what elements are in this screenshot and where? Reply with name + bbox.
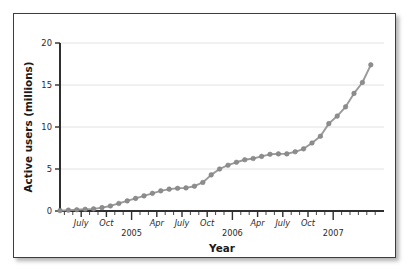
data-point: [66, 208, 71, 213]
y-tick-label-10: 10: [41, 122, 52, 132]
y-tick-label-5: 5: [47, 164, 52, 174]
x-month-labels: July Oct Apr July Oct Apr July Oct: [72, 218, 316, 228]
data-point: [209, 173, 214, 178]
data-point: [310, 141, 315, 146]
data-point: [125, 199, 130, 204]
data-point: [251, 156, 256, 161]
data-point: [83, 207, 88, 212]
y-tick-label-0: 0: [47, 206, 52, 216]
data-point: [234, 160, 239, 165]
y-tick-label-15: 15: [41, 80, 52, 90]
data-point: [201, 180, 206, 185]
data-point: [369, 63, 374, 68]
x-label-2007: 2007: [323, 228, 344, 238]
line-chart-svg: 20 15 10 5 0 Active users (millions): [14, 14, 397, 259]
x-label-2006: 2006: [222, 228, 243, 238]
data-point: [268, 152, 273, 157]
x-axis-title: Year: [208, 242, 236, 254]
x-label-2004-07: July: [72, 218, 89, 228]
data-point: [117, 201, 122, 206]
data-point: [285, 152, 290, 157]
data-point: [133, 196, 138, 201]
data-point: [217, 167, 222, 172]
series-line: [60, 65, 371, 211]
x-label-2006-04: Apr: [250, 218, 266, 228]
x-label-2006-07: July: [273, 218, 290, 228]
x-year-labels: 2005 2006 2007: [121, 228, 343, 238]
y-axis-title: Active users (millions): [22, 61, 34, 192]
data-point: [192, 184, 197, 189]
data-point: [150, 191, 155, 196]
data-point: [58, 208, 63, 213]
data-point: [108, 204, 113, 209]
data-point: [360, 80, 365, 85]
data-point: [318, 134, 323, 139]
data-point: [352, 91, 357, 96]
data-point: [276, 152, 281, 157]
gridlines: [60, 43, 384, 169]
x-label-2005-10: Oct: [200, 218, 215, 228]
data-point: [343, 105, 348, 110]
x-label-2005-04: Apr: [149, 218, 165, 228]
x-label-2004-10: Oct: [99, 218, 114, 228]
data-point: [301, 147, 306, 152]
data-point: [167, 187, 172, 192]
data-point: [159, 189, 164, 194]
y-tick-labels: 20 15 10 5 0: [41, 38, 52, 216]
data-point: [243, 157, 248, 162]
data-point: [75, 207, 80, 212]
data-point: [335, 114, 340, 119]
data-point: [259, 154, 264, 159]
x-label-2005: 2005: [121, 228, 142, 238]
x-label-2005-07: July: [173, 218, 190, 228]
data-point: [184, 186, 189, 191]
data-point: [293, 149, 298, 154]
chart-card: 20 15 10 5 0 Active users (millions): [13, 13, 396, 258]
chart-plot-area: 20 15 10 5 0 Active users (millions): [14, 14, 397, 259]
data-point: [226, 163, 231, 168]
data-point: [100, 205, 105, 210]
data-point: [91, 207, 96, 212]
data-point: [327, 121, 332, 126]
data-point: [142, 194, 147, 199]
x-label-2006-10: Oct: [301, 218, 316, 228]
y-tick-label-20: 20: [41, 38, 52, 48]
data-point: [175, 186, 180, 191]
